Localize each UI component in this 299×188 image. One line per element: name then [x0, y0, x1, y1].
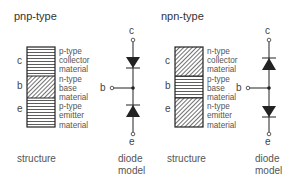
npn-terminal-e: e: [165, 103, 171, 114]
npn-terminal-b: b: [165, 80, 171, 91]
pnp-diode-terminal-c: c: [129, 25, 134, 36]
npn-layer-labels: n-type collector material p-type base ma…: [207, 47, 238, 130]
npn-title: npn-type: [161, 10, 204, 22]
npn-diode-terminal-b: b: [236, 82, 242, 93]
pnp-diode-terminal-e: e: [129, 136, 135, 147]
npn-structure-caption: structure: [167, 153, 206, 165]
npn-diode-model: [246, 38, 276, 136]
pnp-structure-block: [27, 47, 55, 127]
npn-diode-terminal-c: c: [265, 25, 270, 36]
pnp-terminal-e: e: [17, 103, 23, 114]
npn-diode-caption: diode model: [255, 153, 282, 177]
npn-terminal-c: c: [165, 55, 170, 66]
pnp-title: pnp-type: [14, 10, 57, 22]
pnp-structure-caption: structure: [17, 153, 56, 165]
pnp-layer-collector-label: p-type collector material n-type base ma…: [59, 47, 90, 130]
pnp-diode-caption: diode model: [118, 153, 145, 177]
pnp-diode-terminal-b: b: [100, 82, 106, 93]
npn-diode-terminal-e: e: [265, 136, 271, 147]
npn-structure-block: [175, 47, 203, 127]
pnp-terminal-c: c: [17, 55, 22, 66]
pnp-terminal-b: b: [17, 80, 23, 91]
pnp-diode-model: [110, 38, 140, 136]
